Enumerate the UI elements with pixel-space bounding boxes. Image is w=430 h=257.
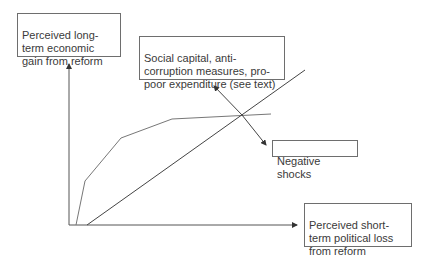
shift-arrow-down <box>242 115 266 145</box>
shift-up-label: Social capital, anti-corruption measures… <box>144 52 275 90</box>
y-axis-label: Perceived long-term economic gain from r… <box>22 29 103 67</box>
shift-down-label-box: Negative shocks <box>272 140 358 157</box>
shift-up-label-box: Social capital, anti-corruption measures… <box>139 36 285 80</box>
y-axis-label-box: Perceived long-term economic gain from r… <box>17 13 121 57</box>
gain-curve <box>76 114 271 225</box>
x-axis-label-box: Perceived short-term political loss from… <box>304 203 412 247</box>
